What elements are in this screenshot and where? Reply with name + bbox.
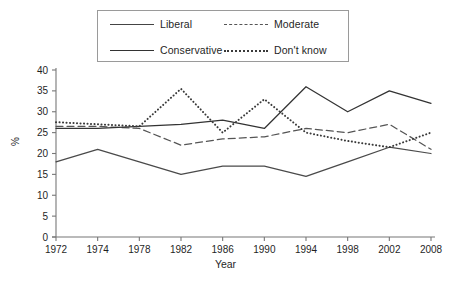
svg-text:1972: 1972 bbox=[45, 244, 68, 255]
svg-text:1978: 1978 bbox=[128, 244, 151, 255]
data-series bbox=[56, 87, 431, 177]
svg-text:2002: 2002 bbox=[378, 244, 401, 255]
svg-text:1974: 1974 bbox=[87, 244, 110, 255]
x-axis-title: Year bbox=[0, 258, 451, 270]
plot-svg: 0510152025303540197219741978198219861990… bbox=[0, 0, 451, 283]
svg-text:1990: 1990 bbox=[253, 244, 276, 255]
y-axis-title: % bbox=[10, 137, 21, 146]
axes: 0510152025303540197219741978198219861990… bbox=[37, 65, 443, 256]
series-line-liberal bbox=[56, 147, 431, 176]
svg-text:1998: 1998 bbox=[337, 244, 360, 255]
svg-text:10: 10 bbox=[37, 190, 49, 201]
plot-area: 0510152025303540197219741978198219861990… bbox=[0, 0, 451, 283]
svg-text:1986: 1986 bbox=[212, 244, 235, 255]
line-chart: Liberal Moderate Conservative Don't know… bbox=[0, 0, 451, 283]
svg-text:35: 35 bbox=[37, 85, 49, 96]
svg-text:1994: 1994 bbox=[295, 244, 318, 255]
svg-text:0: 0 bbox=[42, 232, 48, 243]
svg-text:2008: 2008 bbox=[420, 244, 443, 255]
svg-text:15: 15 bbox=[37, 169, 49, 180]
svg-text:25: 25 bbox=[37, 127, 49, 138]
svg-text:40: 40 bbox=[37, 65, 49, 76]
svg-text:20: 20 bbox=[37, 148, 49, 159]
svg-text:5: 5 bbox=[42, 211, 48, 222]
series-line-conservative bbox=[56, 87, 431, 129]
svg-text:1982: 1982 bbox=[170, 244, 193, 255]
svg-text:30: 30 bbox=[37, 106, 49, 117]
